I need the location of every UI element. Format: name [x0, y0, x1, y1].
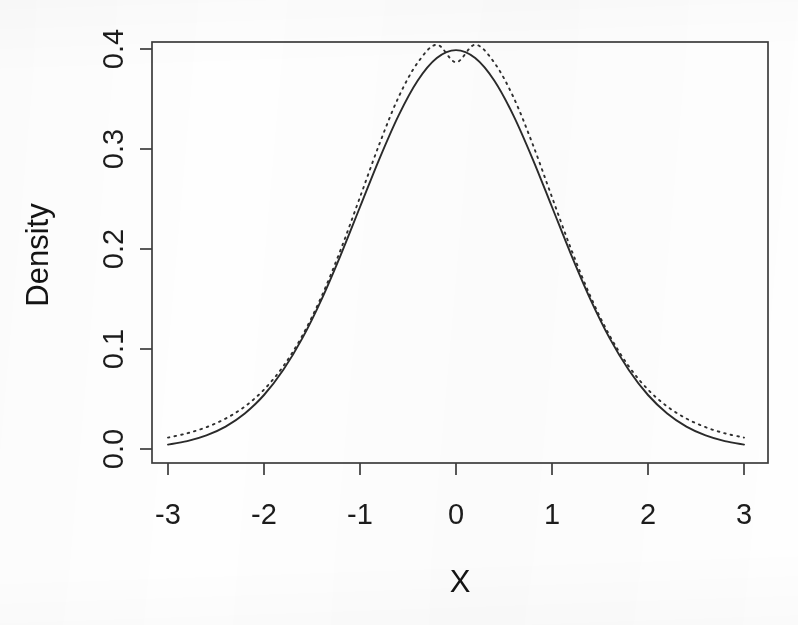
- y-axis-tick-labels: 0.4 0.3 0.2 0.1 0.0: [97, 29, 129, 469]
- plot-canvas: 0.4 0.3 0.2 0.1 0.0 Density -3 -2 -1 0 1…: [0, 0, 798, 625]
- y-axis-title: Density: [20, 203, 55, 307]
- x-axis-ticks: [168, 463, 744, 475]
- x-tick-label-6: 3: [736, 498, 752, 530]
- x-tick-label-5: 2: [640, 498, 656, 530]
- plot-frame: [152, 42, 768, 463]
- x-axis-tick-labels: -3 -2 -1 0 1 2 3: [155, 498, 752, 530]
- x-tick-label-4: 1: [544, 498, 560, 530]
- x-tick-label-0: -3: [155, 498, 181, 530]
- x-tick-label-2: -1: [347, 498, 373, 530]
- x-axis-title: X: [450, 564, 471, 599]
- y-tick-label-3: 0.3: [97, 129, 129, 169]
- y-axis-ticks: [140, 49, 152, 449]
- x-tick-label-1: -2: [251, 498, 277, 530]
- density-curve-dotted: [168, 45, 744, 438]
- x-tick-label-3: 0: [448, 498, 464, 530]
- y-tick-label-4: 0.4: [97, 29, 129, 69]
- y-tick-label-0: 0.0: [97, 429, 129, 469]
- density-curve-solid: [168, 50, 744, 445]
- density-plot-figure: 0.4 0.3 0.2 0.1 0.0 Density -3 -2 -1 0 1…: [0, 0, 798, 625]
- y-tick-label-2: 0.2: [97, 229, 129, 269]
- y-tick-label-1: 0.1: [97, 329, 129, 369]
